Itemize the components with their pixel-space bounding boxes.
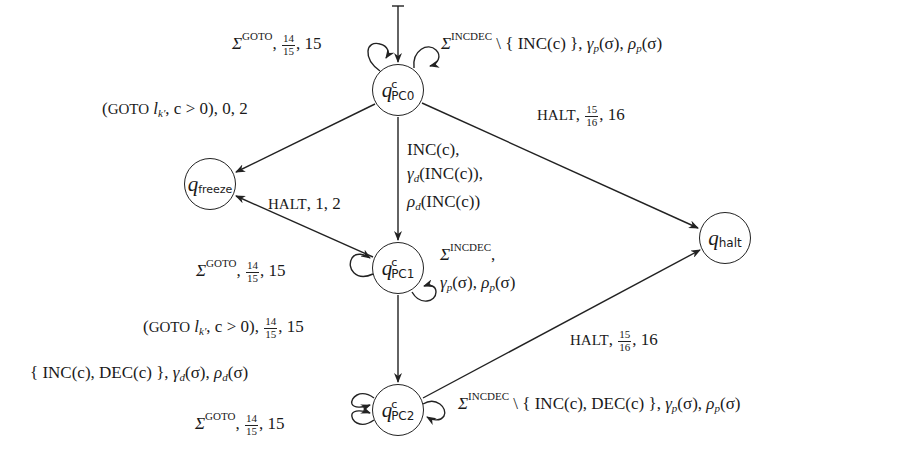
label-pc1-freeze: HALT, 1, 2 xyxy=(268,194,341,214)
state-symbol: q xyxy=(708,226,719,251)
label-pc1-pc2: (GOTO lk′, c > 0), 1415, 15 xyxy=(143,316,304,340)
loop-pc2-left-top xyxy=(352,394,374,407)
label-pc0-freeze: (GOTO lk′, c > 0), 0, 2 xyxy=(102,99,248,120)
loop-pc1-right xyxy=(412,285,436,301)
state-subscript: freeze xyxy=(198,183,232,196)
label-pc0-pc1: INC(c), γd(INC(c)), ρd(INC(c)) xyxy=(407,138,483,218)
fraction: 1415 xyxy=(264,316,277,340)
label-pc0-self-goto: ΣGOTO, 1415, 15 xyxy=(232,30,321,57)
state-symbol: q xyxy=(188,172,199,197)
state-q-halt[interactable]: qhalt xyxy=(699,212,751,264)
label-pc2-self-goto: ΣGOTO, 1415, 15 xyxy=(195,410,284,437)
label-pc2-halt: HALT, 1516, 16 xyxy=(570,329,658,353)
state-q-pc1[interactable]: qcPC1 xyxy=(372,242,424,294)
state-superscript: c xyxy=(391,399,397,410)
state-subscript: halt xyxy=(719,236,742,250)
label-pc1-self-incdec: ΣINCDEC, γp(σ), ρp(σ) xyxy=(440,233,515,301)
label-pc0-halt: HALT, 1516, 16 xyxy=(537,104,625,128)
state-subscript: PC0 xyxy=(391,90,414,102)
state-q-pc0[interactable]: qcPC0 xyxy=(372,64,424,116)
state-q-freeze[interactable]: qfreeze xyxy=(184,158,236,210)
state-subscript: PC2 xyxy=(391,410,414,422)
state-subscript: PC1 xyxy=(391,268,414,280)
fraction: 1415 xyxy=(282,33,295,57)
fraction: 1516 xyxy=(618,329,631,353)
loop-pc2-left-bottom xyxy=(352,411,374,424)
state-superscript: c xyxy=(391,79,397,90)
initial-arrow xyxy=(392,6,404,62)
fraction: 1415 xyxy=(245,413,258,437)
label-pc2-self-incdec-set: { INC(c), DEC(c) }, γd(σ), ρd(σ) xyxy=(30,363,248,384)
loop-pc0-right xyxy=(414,47,439,68)
loop-pc2-right xyxy=(423,401,445,420)
label-pc0-self-incdec: ΣINCDEC \ { INC(c) }, γp(σ), ρp(σ) xyxy=(441,30,662,55)
label-pc2-self-incdec: ΣINCDEC \ { INC(c), DEC(c) }, γp(σ), ρp(… xyxy=(458,390,741,415)
state-superscript: c xyxy=(391,257,397,268)
loop-pc1-left xyxy=(350,254,373,276)
edge-pc0-freeze xyxy=(236,104,375,172)
label-pc1-self-goto: ΣGOTO, 1415, 15 xyxy=(196,257,285,284)
fraction: 1415 xyxy=(246,260,259,284)
fraction: 1516 xyxy=(585,104,598,128)
state-q-pc2[interactable]: qcPC2 xyxy=(372,384,424,436)
